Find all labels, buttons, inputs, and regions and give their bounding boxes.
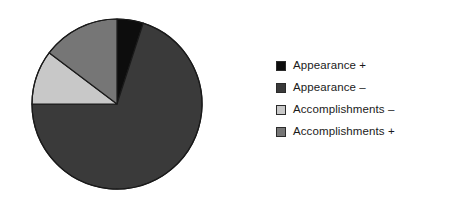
legend-item-accomplishments-plus[interactable]: Accomplishments + bbox=[276, 124, 444, 139]
legend-label: Appearance + bbox=[293, 59, 366, 72]
pie-slice-group bbox=[32, 19, 202, 189]
chart-legend: Appearance + Appearance – Accomplishment… bbox=[276, 58, 444, 139]
legend-item-accomplishments-minus[interactable]: Accomplishments – bbox=[276, 102, 444, 117]
legend-item-appearance-plus[interactable]: Appearance + bbox=[276, 58, 444, 73]
legend-swatch-icon bbox=[276, 61, 286, 71]
pie-svg bbox=[0, 0, 240, 210]
pie-chart-figure: Appearance + Appearance – Accomplishment… bbox=[0, 0, 449, 210]
legend-swatch-icon bbox=[276, 105, 286, 115]
pie-plot-area bbox=[0, 0, 240, 210]
legend-swatch-icon bbox=[276, 127, 286, 137]
legend-item-appearance-minus[interactable]: Appearance – bbox=[276, 80, 444, 95]
legend-label: Accomplishments – bbox=[293, 103, 394, 116]
legend-label: Appearance – bbox=[293, 81, 366, 94]
legend-swatch-icon bbox=[276, 83, 286, 93]
legend-label: Accomplishments + bbox=[293, 125, 395, 138]
